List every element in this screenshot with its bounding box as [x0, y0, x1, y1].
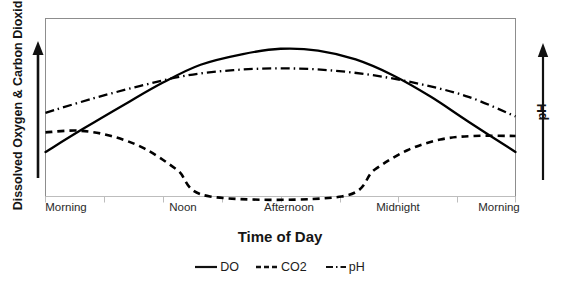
legend-label-co2: CO2: [281, 261, 307, 274]
legend-label-ph: pH: [349, 261, 365, 274]
chart-canvas: [0, 0, 580, 293]
legend-swatch-solid: [195, 262, 217, 272]
left-axis-arrow-icon: [33, 41, 44, 178]
legend-swatch-dashed: [256, 262, 278, 272]
legend-swatch-dashdot: [324, 262, 346, 272]
legend-label-do: DO: [220, 261, 239, 274]
legend-item-ph: pH: [324, 261, 365, 274]
right-axis-arrow-icon: [538, 43, 548, 180]
chart-legend: DO CO2 pH: [45, 261, 515, 274]
legend-item-do: DO: [195, 261, 239, 274]
chart-figure: Dissolved Oxygen & Carbon Dioxide pH Tim…: [0, 0, 580, 293]
legend-item-co2: CO2: [256, 261, 307, 274]
series-line-co2: [46, 131, 516, 200]
series-line-do: [46, 49, 516, 152]
plot-frame: [46, 19, 516, 197]
